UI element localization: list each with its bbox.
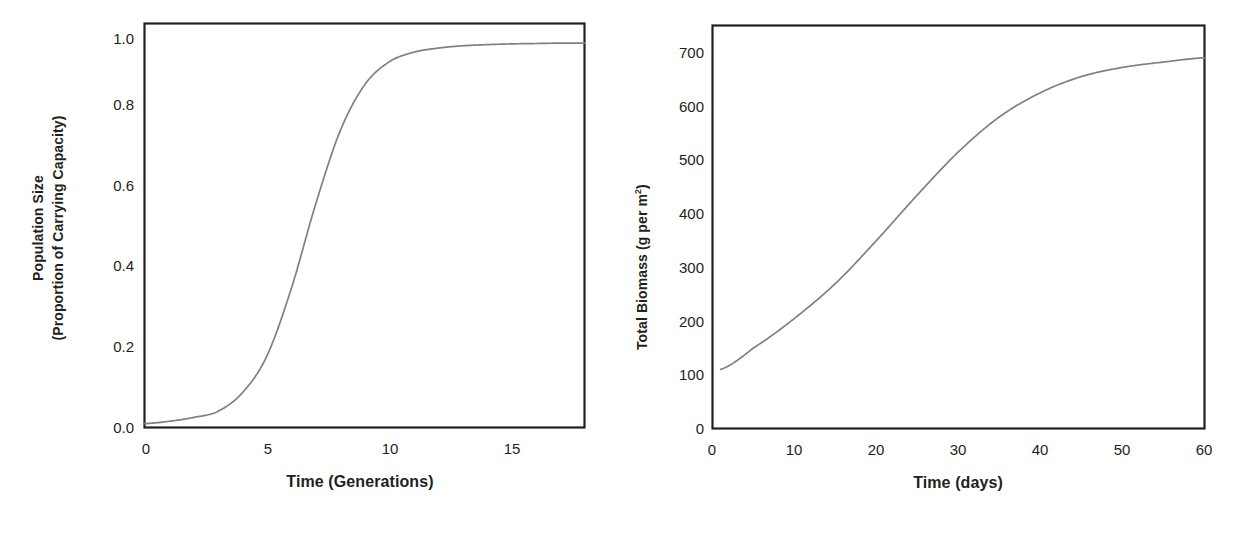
- xtick-label: 15: [504, 441, 521, 456]
- xtick-label: 60: [1196, 442, 1213, 457]
- xtick-label: 10: [382, 441, 399, 456]
- ytick-label: 0.4: [86, 258, 134, 273]
- x-axis-title: Time (Generations): [286, 473, 433, 491]
- xtick-label: 0: [142, 441, 150, 456]
- ytick-label: 0.6: [86, 177, 134, 192]
- ytick-label: 400: [654, 206, 704, 221]
- xtick-label: 30: [950, 442, 967, 457]
- y-axis-title: Total Biomass (g per m2): [634, 184, 650, 350]
- ytick-label: 500: [654, 152, 704, 167]
- chart-panel-population-size: 0.0 0.2 0.4 0.6 0.8 1.0 0 5 10 15 Time (…: [0, 0, 622, 534]
- y-axis-title-line1: Population Size: [28, 58, 48, 398]
- xtick-label: 10: [786, 442, 803, 457]
- xtick-label: 20: [868, 442, 885, 457]
- ytick-label: 600: [654, 98, 704, 113]
- ytick-label: 300: [654, 259, 704, 274]
- ytick-label: 0: [654, 421, 704, 436]
- ytick-label: 200: [654, 313, 704, 328]
- xtick-label: 40: [1032, 442, 1049, 457]
- xtick-label: 5: [264, 441, 272, 456]
- y-axis-title: Population Size (Proportion of Carrying …: [28, 58, 69, 398]
- chart-panel-total-biomass: 0 100 200 300 400 500 600 700 0 10 20 30…: [622, 0, 1244, 534]
- y-axis-title-line2: (Proportion of Carrying Capacity): [48, 58, 68, 398]
- two-panel-growth-figure: 0.0 0.2 0.4 0.6 0.8 1.0 0 5 10 15 Time (…: [0, 0, 1244, 534]
- ytick-label: 0.0: [86, 420, 134, 435]
- ytick-label: 0.2: [86, 339, 134, 354]
- y-axis-title-superscript: 2: [633, 189, 643, 194]
- ytick-label: 700: [654, 44, 704, 59]
- x-axis-title: Time (days): [913, 474, 1003, 492]
- plot-frame: [713, 26, 1205, 429]
- y-axis-title-suffix: ): [634, 184, 650, 189]
- ytick-label: 0.8: [86, 96, 134, 111]
- y-axis-title-text: Total Biomass (g per m: [634, 194, 650, 350]
- ytick-label: 1.0: [86, 31, 134, 46]
- ytick-label: 100: [654, 367, 704, 382]
- xtick-label: 0: [708, 442, 716, 457]
- xtick-label: 50: [1114, 442, 1131, 457]
